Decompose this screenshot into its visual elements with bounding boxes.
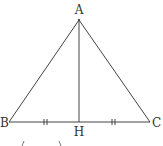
- partial-mark-right: [59, 141, 61, 146]
- label-c: C: [152, 116, 161, 130]
- label-a: A: [74, 3, 84, 17]
- segment-ac: [79, 20, 150, 122]
- partial-mark-left: [22, 141, 24, 146]
- segment-ab: [9, 20, 79, 122]
- label-b: B: [0, 116, 9, 130]
- point-a-dot: [78, 19, 80, 21]
- label-h: H: [74, 125, 84, 139]
- triangle-diagram: A B C H: [0, 0, 163, 146]
